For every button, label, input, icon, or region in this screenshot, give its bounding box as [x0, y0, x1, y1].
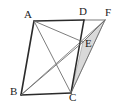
segment-AB: [21, 21, 34, 95]
segment-CF: [71, 20, 105, 93]
geometry-canvas: [0, 0, 122, 109]
vertex-label-d: D: [79, 6, 87, 17]
vertex-label-a: A: [24, 9, 32, 20]
geometry-figure: A B C D E F: [0, 0, 122, 109]
vertex-label-e: E: [85, 38, 92, 49]
segment-AD: [34, 20, 84, 21]
vertex-label-f: F: [105, 7, 111, 18]
segment-AE: [34, 21, 83, 42]
segment-BC: [21, 93, 71, 95]
vertex-label-b: B: [10, 86, 17, 97]
segment-BF: [21, 20, 105, 95]
vertex-label-c: C: [69, 92, 76, 103]
